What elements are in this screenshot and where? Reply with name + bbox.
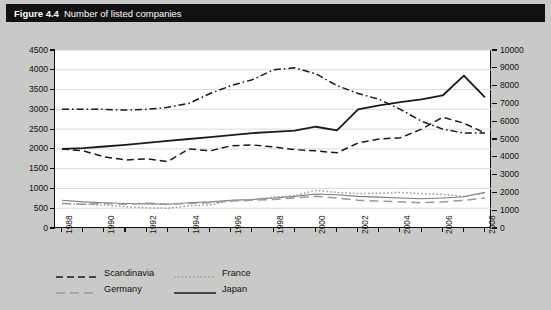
y-axis-tick-mark-left xyxy=(50,208,55,209)
legend-swatch-scandinavia xyxy=(56,268,98,278)
legend-swatch-japan xyxy=(174,284,216,294)
y-axis-tick-mark-right xyxy=(492,192,497,193)
y-axis-tick-label-left: 2500 xyxy=(6,125,48,134)
figure-container: Figure 4.4 Number of listed companies 05… xyxy=(0,0,551,310)
y-axis-tick-mark-left xyxy=(50,227,55,228)
y-axis-tick-mark-right xyxy=(492,210,497,211)
y-axis-tick-mark-left xyxy=(50,148,55,149)
y-axis-tick-label-left: 3000 xyxy=(6,105,48,114)
y-axis-tick-mark-right xyxy=(492,85,497,86)
x-axis-tick-label: 2002 xyxy=(361,215,369,234)
x-axis-tick-mark xyxy=(378,228,379,232)
x-axis-tick-mark xyxy=(167,228,168,232)
y-axis-tick-mark-left xyxy=(50,129,55,130)
y-axis-tick-mark-right xyxy=(492,156,497,157)
series-line-japan xyxy=(62,76,485,149)
x-axis-tick-mark xyxy=(484,228,485,232)
x-axis-tick-mark xyxy=(294,228,295,232)
y-axis-tick-label-left: 3500 xyxy=(6,85,48,94)
x-axis-tick-mark xyxy=(399,228,400,232)
x-axis-tick-mark xyxy=(251,228,252,232)
y-axis-tick-label-right: 1000 xyxy=(500,206,519,215)
y-axis-tick-label-left: 4000 xyxy=(6,65,48,74)
x-axis-tick-label: 2000 xyxy=(318,215,326,234)
x-axis-tick-mark xyxy=(357,228,358,232)
y-axis-tick-mark-left xyxy=(50,109,55,110)
legend-label-scandinavia: Scandinavia xyxy=(104,268,154,278)
legend-item-japan[interactable]: Japan xyxy=(174,282,247,296)
legend-swatch-france xyxy=(174,268,216,278)
x-axis-tick-label: 2008 xyxy=(488,215,496,234)
x-axis-tick-label: 1996 xyxy=(234,215,242,234)
x-axis-tick-mark xyxy=(124,228,125,232)
legend-label-japan: Japan xyxy=(222,284,247,294)
legend-label-germany: Germany xyxy=(104,284,142,294)
x-axis-tick-mark xyxy=(442,228,443,232)
legend-item-germany[interactable]: Germany xyxy=(56,282,142,296)
x-axis-tick-label: 2004 xyxy=(403,215,411,234)
x-axis-tick-label: 1994 xyxy=(192,215,200,234)
y-axis-tick-mark-right xyxy=(492,49,497,50)
legend-item-france[interactable]: France xyxy=(174,266,251,280)
y-axis-tick-mark-right xyxy=(492,121,497,122)
y-axis-tick-mark-left xyxy=(50,69,55,70)
plot-svg xyxy=(55,50,492,228)
x-axis-tick-mark xyxy=(103,228,104,232)
y-axis-tick-label-right: 4000 xyxy=(500,152,519,161)
y-axis-tick-label-right: 5000 xyxy=(500,135,519,144)
chart-legend: ScandinaviaFranceGermanyJapan xyxy=(56,266,306,300)
x-axis-tick-mark xyxy=(146,228,147,232)
y-axis-tick-mark-left xyxy=(50,89,55,90)
x-axis-tick-mark xyxy=(463,228,464,232)
y-axis-tick-label-right: 10000 xyxy=(500,46,524,55)
y-axis-tick-mark-left xyxy=(50,188,55,189)
x-axis-tick-mark xyxy=(315,228,316,232)
x-axis-tick-mark xyxy=(336,228,337,232)
x-axis-tick-label: 1992 xyxy=(149,215,157,234)
y-axis-tick-label-right: 8000 xyxy=(500,81,519,90)
y-axis-tick-label-right: 6000 xyxy=(500,117,519,126)
y-axis-tick-mark-left xyxy=(50,168,55,169)
y-axis-tick-label-right: 3000 xyxy=(500,170,519,179)
figure-number: Figure 4.4 xyxy=(14,8,59,19)
x-axis-tick-mark xyxy=(230,228,231,232)
y-axis-tick-label-right: 7000 xyxy=(500,99,519,108)
y-axis-tick-label-left: 500 xyxy=(6,204,48,213)
y-axis-tick-mark-right xyxy=(492,103,497,104)
x-axis-tick-label: 1990 xyxy=(107,215,115,234)
legend-swatch-germany xyxy=(56,284,98,294)
y-axis-tick-label-right: 2000 xyxy=(500,188,519,197)
y-axis-tick-label-right: 9000 xyxy=(500,63,519,72)
figure-title: Number of listed companies xyxy=(64,8,182,19)
y-axis-tick-mark-right xyxy=(492,174,497,175)
y-axis-tick-label-right: 0 xyxy=(500,224,505,233)
y-axis-tick-mark-right xyxy=(492,138,497,139)
y-axis-tick-label-left: 4500 xyxy=(6,46,48,55)
y-axis-tick-label-left: 0 xyxy=(6,224,48,233)
x-axis-tick-mark xyxy=(209,228,210,232)
y-axis-tick-label-left: 2000 xyxy=(6,144,48,153)
x-axis-tick-mark xyxy=(421,228,422,232)
y-axis-tick-label-left: 1000 xyxy=(6,184,48,193)
figure-title-bar: Figure 4.4 Number of listed companies xyxy=(6,4,545,22)
x-axis-tick-label: 2006 xyxy=(445,215,453,234)
legend-item-scandinavia[interactable]: Scandinavia xyxy=(56,266,154,280)
series-line-unlabeled-upper xyxy=(62,68,485,133)
x-axis-tick-mark xyxy=(188,228,189,232)
y-axis-tick-mark-right xyxy=(492,67,497,68)
x-axis-tick-mark xyxy=(61,228,62,232)
x-axis-tick-mark xyxy=(82,228,83,232)
y-axis-tick-mark-left xyxy=(50,49,55,50)
chart-area: 0500100015002000250030003500400045000100… xyxy=(6,26,545,306)
series-line-scandinavia xyxy=(62,117,485,161)
x-axis-tick-mark xyxy=(273,228,274,232)
x-axis-tick-label: 1988 xyxy=(65,215,73,234)
legend-label-france: France xyxy=(222,268,251,278)
plot-box xyxy=(54,50,491,228)
y-axis-tick-label-left: 1500 xyxy=(6,164,48,173)
x-axis-tick-label: 1998 xyxy=(276,215,284,234)
